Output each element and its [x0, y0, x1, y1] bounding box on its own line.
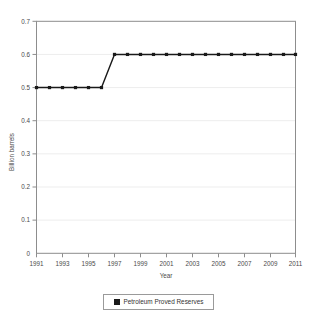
- x-tick-label-2011: 2011: [289, 260, 303, 267]
- x-tick-label-1997: 1997: [107, 260, 122, 267]
- data-point-1995: [87, 86, 90, 89]
- y-tick-marks: [33, 21, 37, 220]
- x-tick-label-2007: 2007: [237, 260, 252, 267]
- x-tick-label-1993: 1993: [55, 260, 70, 267]
- legend-item-label: Petroleum Proved Reserves: [124, 299, 204, 305]
- data-point-1994: [74, 86, 77, 89]
- line-chart-plot: 0.7 0.6 0.5 0.4 0.3 0.2 0.1 0 1991 1993 …: [0, 0, 312, 323]
- x-tick-label-1999: 1999: [133, 260, 148, 267]
- data-point-1997: [113, 53, 116, 56]
- data-point-2000: [152, 53, 155, 56]
- x-tick-label-2005: 2005: [211, 260, 226, 267]
- x-tick-labels: 1991 1993 1995 1997 1999 2001 2003 2005 …: [29, 260, 302, 267]
- x-tick-label-2009: 2009: [263, 260, 278, 267]
- x-tick-label-1991: 1991: [29, 260, 44, 267]
- series-line-petroleum-proved-reserves: [37, 54, 296, 87]
- data-point-2004: [204, 53, 207, 56]
- y-tick-label-0.4: 0.4: [21, 117, 30, 124]
- y-tick-label-0.5: 0.5: [21, 84, 30, 91]
- data-point-2006: [230, 53, 233, 56]
- series-markers-petroleum-proved-reserves: [35, 53, 297, 89]
- data-point-2007: [243, 53, 246, 56]
- legend-swatch-icon: [114, 299, 120, 305]
- data-point-1999: [139, 53, 142, 56]
- data-point-1998: [126, 53, 129, 56]
- chart-legend: Petroleum Proved Reserves: [103, 294, 214, 310]
- x-tick-label-2003: 2003: [185, 260, 200, 267]
- data-point-2003: [191, 53, 194, 56]
- gridlines: [36, 54, 296, 220]
- data-point-1993: [61, 86, 64, 89]
- data-point-2009: [269, 53, 272, 56]
- x-tick-marks: [37, 253, 296, 257]
- data-point-2005: [217, 53, 220, 56]
- y-tick-label-0.1: 0.1: [21, 216, 30, 223]
- y-axis-title: Billion barrels: [8, 133, 15, 171]
- chart-figure: 0.7 0.6 0.5 0.4 0.3 0.2 0.1 0 1991 1993 …: [0, 0, 312, 323]
- data-point-1992: [48, 86, 51, 89]
- data-point-2001: [165, 53, 168, 56]
- x-tick-label-1995: 1995: [81, 260, 96, 267]
- data-point-2008: [256, 53, 259, 56]
- data-point-2011: [294, 53, 297, 56]
- y-tick-label-0: 0: [26, 250, 30, 257]
- x-tick-label-2001: 2001: [159, 260, 174, 267]
- data-point-1996: [100, 86, 103, 89]
- plot-frame: [36, 21, 296, 253]
- y-tick-label-0.2: 0.2: [21, 183, 30, 190]
- data-point-1991: [35, 86, 38, 89]
- data-point-2002: [178, 53, 181, 56]
- data-point-2010: [282, 53, 285, 56]
- y-tick-label-0.6: 0.6: [21, 51, 30, 58]
- y-tick-labels: 0.7 0.6 0.5 0.4 0.3 0.2 0.1 0: [21, 18, 30, 257]
- y-tick-label-0.3: 0.3: [21, 150, 30, 157]
- x-axis-title: Year: [160, 272, 173, 279]
- y-tick-label-0.7: 0.7: [21, 18, 30, 25]
